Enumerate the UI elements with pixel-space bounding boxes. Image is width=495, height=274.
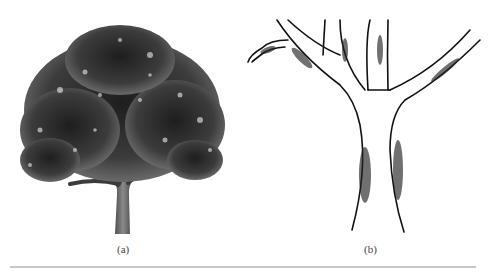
figure-bottom-rule	[10, 266, 476, 268]
panel-a-caption: (a)	[117, 243, 129, 255]
tree-photo-illustration	[0, 0, 245, 250]
trunk-line-drawing	[240, 0, 495, 250]
figure-panel-b-trunk-drawing	[240, 0, 495, 250]
panel-b-caption: (b)	[364, 243, 377, 255]
figure-panel-a-tree-photo	[0, 0, 245, 250]
